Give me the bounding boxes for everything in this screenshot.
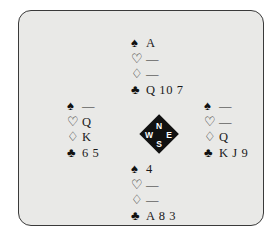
east-club-ranks: K J 9 [217, 147, 248, 160]
heart-icon: ♡ [131, 52, 144, 65]
west-club-row: ♣ 6 5 [67, 146, 99, 162]
west-club-ranks: 6 5 [80, 147, 99, 160]
spade-icon: ♠ [131, 36, 144, 49]
south-diamond-row: ♢ — [131, 193, 176, 209]
west-diamond-ranks: K [80, 131, 92, 144]
north-club-row: ♣ Q 10 7 [131, 83, 184, 99]
diamond-icon: ♢ [131, 193, 144, 206]
compass-rose: N W E S [139, 114, 179, 154]
hand-north: ♠ A ♡ — ♢ — ♣ Q 10 7 [131, 36, 184, 98]
hand-west: ♠ — ♡ Q ♢ K ♣ 6 5 [67, 99, 99, 161]
west-spade-row: ♠ — [67, 99, 99, 115]
diamond-icon: ♢ [67, 130, 80, 143]
west-heart-row: ♡ Q [67, 115, 99, 131]
heart-icon: ♡ [131, 178, 144, 191]
east-diamond-ranks: Q [217, 131, 229, 144]
north-club-ranks: Q 10 7 [144, 84, 184, 97]
compass-label-east: E [163, 131, 175, 140]
hand-east: ♠ — ♡ — ♢ Q ♣ K J 9 [204, 99, 248, 161]
north-heart-row: ♡ — [131, 52, 184, 68]
club-icon: ♣ [131, 83, 144, 96]
spade-icon: ♠ [67, 99, 80, 112]
east-club-row: ♣ K J 9 [204, 146, 248, 162]
north-diamond-ranks: — [144, 68, 159, 81]
north-heart-ranks: — [144, 53, 159, 66]
south-club-row: ♣ A 8 3 [131, 209, 176, 225]
east-heart-ranks: — [217, 116, 232, 129]
compass-label-south: S [153, 140, 165, 149]
north-diamond-row: ♢ — [131, 67, 184, 83]
bridge-hand-diagram: ♠ A ♡ — ♢ — ♣ Q 10 7 ♠ — ♡ [0, 0, 280, 240]
north-spade-ranks: A [144, 37, 156, 50]
spade-icon: ♠ [131, 162, 144, 175]
hand-diagram-panel: ♠ A ♡ — ♢ — ♣ Q 10 7 ♠ — ♡ [18, 10, 264, 226]
club-icon: ♣ [204, 146, 217, 159]
compass-label-west: W [143, 131, 155, 140]
south-spade-row: ♠ 4 [131, 162, 176, 178]
compass-label-north: N [153, 122, 165, 131]
east-diamond-row: ♢ Q [204, 130, 248, 146]
hand-south: ♠ 4 ♡ — ♢ — ♣ A 8 3 [131, 162, 176, 224]
heart-icon: ♡ [204, 115, 217, 128]
east-spade-ranks: — [217, 100, 232, 113]
south-spade-ranks: 4 [144, 163, 153, 176]
south-club-ranks: A 8 3 [144, 210, 176, 223]
club-icon: ♣ [67, 146, 80, 159]
west-diamond-row: ♢ K [67, 130, 99, 146]
east-heart-row: ♡ — [204, 115, 248, 131]
spade-icon: ♠ [204, 99, 217, 112]
heart-icon: ♡ [67, 115, 80, 128]
south-heart-ranks: — [144, 179, 159, 192]
west-spade-ranks: — [80, 100, 95, 113]
diamond-icon: ♢ [204, 130, 217, 143]
north-spade-row: ♠ A [131, 36, 184, 52]
club-icon: ♣ [131, 209, 144, 222]
east-spade-row: ♠ — [204, 99, 248, 115]
diamond-icon: ♢ [131, 67, 144, 80]
south-diamond-ranks: — [144, 194, 159, 207]
south-heart-row: ♡ — [131, 178, 176, 194]
west-heart-ranks: Q [80, 116, 92, 129]
